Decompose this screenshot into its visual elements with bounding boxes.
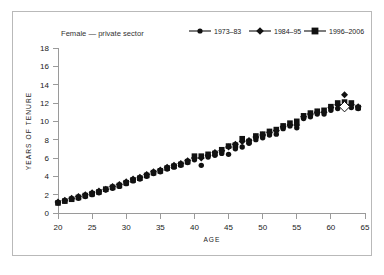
x-tick-label: 20 [54, 223, 63, 232]
y-tick-label: 0 [45, 209, 50, 218]
square-marker [96, 189, 102, 195]
square-marker [55, 200, 61, 206]
legend-label-1: 1984–95 [274, 28, 301, 35]
y-axis-ticks: 024681012141618 [40, 44, 58, 218]
circle-marker [226, 152, 231, 157]
square-marker [312, 28, 319, 35]
legend: 1973–83 1984–95 1996–2006 [189, 27, 364, 35]
legend-entry-1[interactable]: 1984–95 [249, 27, 301, 35]
square-marker [267, 129, 273, 135]
y-tick-label: 10 [40, 117, 49, 126]
square-marker [239, 136, 245, 142]
square-marker [89, 191, 95, 197]
y-tick-label: 4 [45, 172, 50, 181]
square-marker [76, 195, 82, 201]
square-marker [294, 119, 300, 125]
square-marker [164, 165, 170, 171]
y-tick-label: 12 [40, 99, 49, 108]
square-marker [103, 186, 109, 192]
x-tick-label: 65 [361, 223, 370, 232]
legend-label-0: 1973–83 [214, 28, 241, 35]
series-title: Female — private sector [61, 29, 144, 38]
x-axis-title: AGE [203, 236, 220, 243]
square-marker [144, 173, 150, 179]
figure-frame: Female — private sector 1973–83 1984–95 … [12, 11, 372, 256]
legend-entry-0[interactable]: 1973–83 [189, 28, 241, 35]
series-1 [55, 91, 362, 205]
square-marker [151, 170, 157, 176]
square-marker [274, 127, 280, 133]
square-marker [117, 183, 123, 189]
diamond-marker [341, 91, 348, 98]
square-marker [212, 151, 218, 157]
square-marker [62, 198, 68, 204]
square-marker [253, 133, 259, 139]
square-marker [185, 159, 191, 165]
x-tick-label: 25 [88, 223, 97, 232]
square-marker [137, 175, 143, 181]
y-tick-label: 14 [40, 81, 49, 90]
x-axis-ticks: 20253035404550556065 [54, 213, 370, 232]
square-marker [308, 110, 314, 116]
square-marker [246, 139, 252, 145]
x-tick-label: 50 [258, 223, 267, 232]
data-point-layer [55, 91, 362, 205]
square-marker [158, 168, 164, 174]
square-marker [233, 142, 239, 148]
square-marker [280, 123, 286, 129]
circle-marker [199, 163, 204, 168]
x-tick-label: 30 [122, 223, 131, 232]
x-tick-label: 35 [156, 223, 165, 232]
square-marker [123, 180, 129, 186]
x-tick-label: 40 [190, 223, 199, 232]
legend-entry-2[interactable]: 1996–2006 [304, 28, 364, 35]
square-marker [287, 120, 293, 126]
square-marker [205, 152, 211, 158]
square-marker [328, 104, 334, 110]
y-tick-label: 16 [40, 62, 49, 71]
square-marker [198, 153, 204, 159]
y-tick-label: 6 [45, 154, 50, 163]
legend-label-2: 1996–2006 [329, 28, 364, 35]
y-tick-label: 8 [45, 136, 50, 145]
square-marker [314, 108, 320, 114]
y-tick-label: 18 [40, 44, 49, 53]
y-axis-title: YEARS OF TENURE [25, 92, 32, 171]
square-marker [69, 196, 75, 202]
x-tick-label: 60 [326, 223, 335, 232]
circle-marker [197, 28, 202, 33]
x-tick-label: 45 [224, 223, 233, 232]
square-marker [219, 147, 225, 153]
square-marker [226, 143, 232, 149]
y-tick-label: 2 [45, 191, 50, 200]
diamond-marker [256, 27, 264, 35]
square-marker [82, 193, 88, 199]
square-marker [130, 177, 136, 183]
square-marker [171, 163, 177, 169]
square-marker [301, 113, 307, 119]
chart-canvas: Female — private sector 1973–83 1984–95 … [13, 12, 373, 257]
diamond-marker [339, 101, 349, 111]
square-marker [260, 131, 266, 137]
square-marker [192, 153, 198, 159]
x-tick-label: 55 [292, 223, 301, 232]
circle-marker [240, 144, 245, 149]
square-marker [335, 100, 341, 106]
square-marker [349, 100, 355, 106]
square-marker [355, 105, 361, 111]
square-marker [321, 108, 327, 114]
square-marker [110, 185, 116, 191]
annotation-open-marker [339, 101, 349, 111]
square-marker [178, 162, 184, 168]
